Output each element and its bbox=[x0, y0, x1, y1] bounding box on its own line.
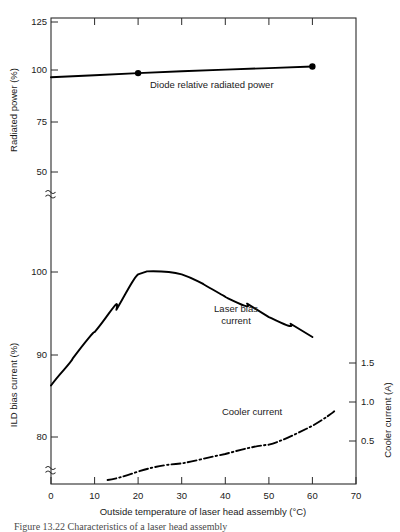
x-tick-label: 0 bbox=[48, 490, 53, 501]
y-right-axis-ticks bbox=[349, 363, 356, 441]
x-tick-label: 20 bbox=[133, 490, 144, 501]
series-cooler-current bbox=[108, 411, 335, 480]
y-bottom-tick-label: 80 bbox=[36, 431, 47, 442]
series-diode-relative-radiated-power bbox=[51, 63, 316, 77]
x-tick-label: 10 bbox=[89, 490, 100, 501]
series-label-cooler: Cooler current bbox=[222, 406, 283, 417]
y-top-tick-label: 125 bbox=[31, 16, 47, 27]
series-label-laser-bias-line2: current bbox=[221, 315, 251, 326]
series-label-laser-bias-line1: Laser bias bbox=[214, 303, 258, 314]
x-tick-label: 50 bbox=[264, 490, 275, 501]
figure-container: 0 10 20 30 40 50 60 70 Outside temperatu… bbox=[0, 0, 400, 532]
chart-canvas: 0 10 20 30 40 50 60 70 Outside temperatu… bbox=[0, 0, 400, 532]
bottom-axis-ticks bbox=[51, 477, 356, 484]
y-right-tick-label: 1.0 bbox=[361, 396, 374, 407]
y-right-tick-labels: 1.5 1.0 0.5 bbox=[361, 357, 374, 446]
y-top-axis-ticks bbox=[51, 22, 58, 172]
x-axis-tick-labels: 0 10 20 30 40 50 60 70 bbox=[48, 490, 361, 501]
y-bottom-tick-label: 90 bbox=[36, 349, 47, 360]
x-tick-label: 70 bbox=[351, 490, 362, 501]
y-top-axis-title: Radiated power (%) bbox=[8, 68, 19, 152]
x-tick-label: 30 bbox=[176, 490, 187, 501]
x-axis-title: Outside temperature of laser head assemb… bbox=[100, 506, 307, 517]
y-bottom-tick-label: 100 bbox=[31, 266, 47, 277]
y-right-tick-label: 0.5 bbox=[361, 435, 374, 446]
y-right-tick-label: 1.5 bbox=[361, 357, 374, 368]
y-top-tick-label: 75 bbox=[36, 116, 47, 127]
figure-caption: Figure 13.22 Characteristics of a laser … bbox=[14, 521, 227, 532]
y-top-tick-labels: 125 100 75 50 bbox=[31, 16, 47, 177]
data-point-marker bbox=[135, 70, 141, 76]
x-tick-label: 40 bbox=[220, 490, 231, 501]
data-point-marker bbox=[309, 63, 315, 69]
y-top-tick-label: 100 bbox=[31, 64, 47, 75]
x-tick-label: 60 bbox=[307, 490, 318, 501]
series-laser-bias-current bbox=[51, 271, 312, 385]
y-bottom-axis-ticks bbox=[51, 272, 58, 437]
y-top-tick-label: 50 bbox=[36, 166, 47, 177]
y-bottom-tick-labels: 100 90 80 bbox=[31, 266, 47, 442]
y-right-axis-title: Cooler current (A) bbox=[382, 382, 393, 458]
series-label-diode: Diode relative radiated power bbox=[150, 79, 274, 90]
y-bottom-axis-title: ILD bias current (%) bbox=[8, 343, 19, 427]
top-axis-ticks bbox=[95, 18, 313, 25]
